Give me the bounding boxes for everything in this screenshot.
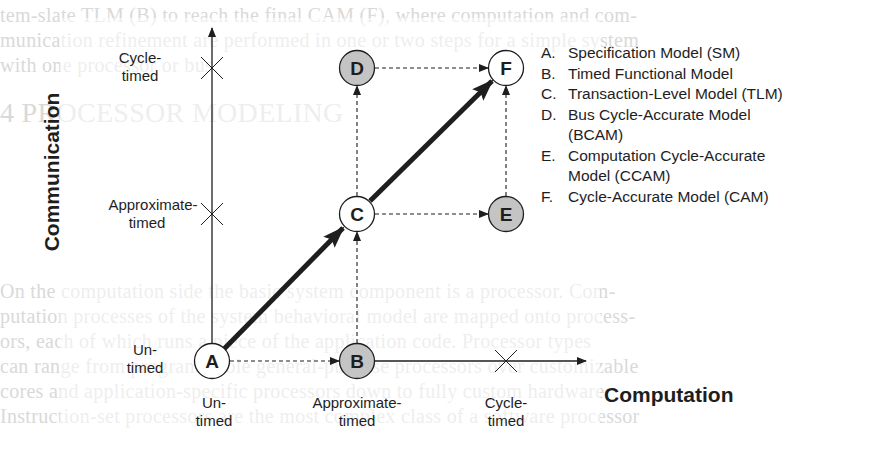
legend-key: A. xyxy=(541,43,568,64)
y-tick-label-line: timed xyxy=(120,359,170,377)
legend-key: C. xyxy=(541,84,568,105)
svg-text:A: A xyxy=(205,351,219,372)
legend-key: B. xyxy=(541,64,568,85)
legend-item-a: A. Specification Model (SM) xyxy=(541,43,808,64)
legend-text: Specification Model (SM) xyxy=(568,43,788,64)
svg-text:F: F xyxy=(500,58,512,79)
legend-key: E. xyxy=(541,146,568,187)
svg-text:E: E xyxy=(500,204,513,225)
legend-item-c: C. Transaction-Level Model (TLM) xyxy=(541,84,808,105)
x-tick-label-approximate-timed: Approximate- timed xyxy=(302,394,412,430)
x-tick-label-line: timed xyxy=(192,412,236,430)
x-tick-label-untimed: Un- timed xyxy=(192,394,236,430)
x-tick-label-line: timed xyxy=(302,412,412,430)
y-tick-label-cycle-timed: Cycle- timed xyxy=(100,49,180,85)
x-tick-label-line: Un- xyxy=(192,394,236,412)
svg-text:B: B xyxy=(350,351,364,372)
node-b: B xyxy=(340,344,375,379)
y-axis xyxy=(201,28,223,344)
edge-a-c xyxy=(224,228,343,349)
y-tick-label-approximate-timed: Approximate- timed xyxy=(86,196,206,232)
legend-text: Bus Cycle-Accurate Model (BCAM) xyxy=(568,105,808,146)
x-tick-label-cycle-timed: Cycle- timed xyxy=(476,394,536,430)
legend-item-f: F. Cycle-Accurate Model (CAM) xyxy=(541,187,808,208)
x-tick-label-line: Cycle- xyxy=(476,394,536,412)
legend-key: F. xyxy=(541,187,568,208)
x-tick-label-line: timed xyxy=(476,412,536,430)
y-tick-label-line: Approximate- xyxy=(86,196,206,214)
legend-item-e: E. Computation Cycle-Accurate Model (CCA… xyxy=(541,146,808,187)
edge-c-f xyxy=(370,81,492,201)
node-f: F xyxy=(489,51,524,86)
y-tick-label-line: Cycle- xyxy=(100,49,180,67)
legend-text: Transaction-Level Model (TLM) xyxy=(568,84,788,105)
x-tick-label-line: Approximate- xyxy=(302,394,412,412)
legend-text: Computation Cycle-Accurate Model (CCAM) xyxy=(568,146,798,187)
x-axis-title: Computation xyxy=(604,383,733,407)
legend-text: Cycle-Accurate Model (CAM) xyxy=(568,187,808,208)
legend: A. Specification Model (SM) B. Timed Fun… xyxy=(541,43,808,207)
legend-text: Timed Functional Model xyxy=(568,64,788,85)
node-c: C xyxy=(340,197,375,232)
svg-text:D: D xyxy=(350,58,364,79)
legend-key: D. xyxy=(541,105,568,146)
node-a: A xyxy=(195,344,230,379)
y-axis-title: Communication xyxy=(40,92,64,252)
legend-item-d: D. Bus Cycle-Accurate Model (BCAM) xyxy=(541,105,808,146)
node-e: E xyxy=(489,197,524,232)
y-tick-label-untimed: Un- timed xyxy=(120,341,170,377)
node-d: D xyxy=(340,51,375,86)
y-tick-label-line: timed xyxy=(100,67,180,85)
y-tick-label-line: Un- xyxy=(120,341,170,359)
x-axis xyxy=(374,350,586,372)
svg-text:C: C xyxy=(350,204,364,225)
y-tick-label-line: timed xyxy=(86,214,206,232)
legend-item-b: B. Timed Functional Model xyxy=(541,64,808,85)
